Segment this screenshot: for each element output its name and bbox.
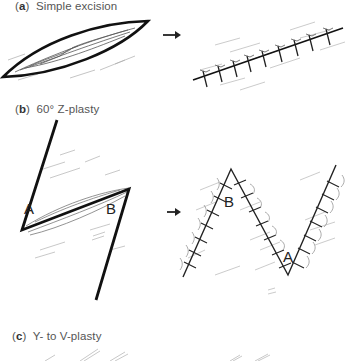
- point-a-label: A: [24, 200, 34, 217]
- z-plasty-incision: A B: [22, 120, 129, 300]
- transposed-point-b-label: B: [224, 193, 234, 210]
- transposed-point-a-label: A: [283, 248, 293, 265]
- diagram-canvas: A B B A: [0, 0, 353, 361]
- simple-excision-wound: [3, 21, 148, 80]
- arrow-icon-b: [167, 208, 181, 216]
- sutured-linear-closure: [193, 22, 345, 90]
- arrow-icon-a: [163, 31, 181, 39]
- point-b-label: B: [106, 200, 116, 217]
- y-to-v-plasty-sketch: [45, 349, 270, 361]
- z-plasty-sutured-closure: B A: [180, 165, 344, 294]
